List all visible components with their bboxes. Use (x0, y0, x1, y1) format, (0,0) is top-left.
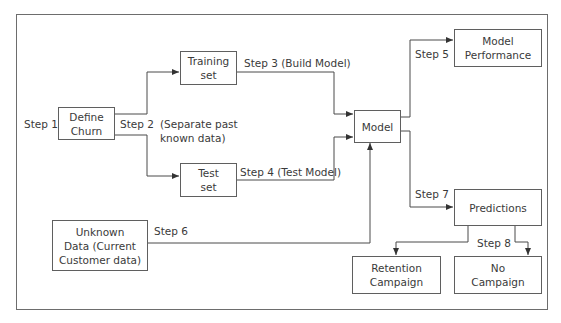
edge-predictions-to-retention (396, 225, 468, 255)
label-step6: Step 6 (154, 224, 188, 238)
edge-define-to-training (114, 72, 179, 114)
edge-training-to-model (236, 72, 353, 114)
node-predictions: Predictions (454, 189, 542, 226)
label-step8: Step 8 (477, 236, 511, 250)
node-unknown-data: Unknown Data (Current Customer data) (52, 220, 148, 271)
node-model: Model (354, 110, 401, 143)
label-step2-note: (Separate past known data) (160, 117, 238, 145)
node-no-campaign: No Campaign (454, 256, 542, 294)
label-step5: Step 5 (415, 47, 449, 61)
label-step3: Step 3 (Build Model) (244, 56, 351, 70)
node-model-performance: Model Performance (454, 29, 542, 67)
label-step1: Step 1 (24, 117, 58, 131)
label-step4: Step 4 (Test Model) (240, 165, 341, 179)
edge-predictions-to-nocampaign (515, 225, 528, 255)
label-step7: Step 7 (415, 187, 449, 201)
node-define-churn: Define Churn (58, 107, 115, 140)
node-retention-campaign: Retention Campaign (352, 256, 441, 294)
label-step2: Step 2 (120, 117, 154, 131)
node-training-set: Training set (180, 51, 237, 85)
node-test-set: Test set (180, 163, 237, 197)
